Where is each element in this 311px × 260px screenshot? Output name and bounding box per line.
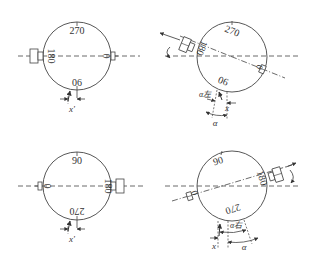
offset-label: x [224, 103, 229, 113]
dial-label-right: 180 [255, 169, 270, 187]
dial-label-left: 0 [42, 184, 53, 189]
offset-label: x [211, 241, 216, 251]
dial-label-right: 180 [103, 179, 114, 194]
angle-label: α [213, 118, 218, 128]
dial-label-right: 0 [101, 54, 112, 59]
offset-label: x' [68, 104, 76, 114]
dial-label-top: 270 [70, 25, 85, 36]
sub-angle-label: α左 [199, 90, 212, 99]
panel-bottom-left: 90 270 0 180 x' [18, 152, 145, 244]
offset-label: x' [68, 234, 76, 244]
rotation-arrow-icon [290, 170, 293, 183]
offset-indicator [60, 91, 85, 104]
panel-top-right: 270 06 180 0 x α左 α [160, 21, 300, 128]
dial-label-top: 90 [72, 155, 82, 166]
offset-indicator [60, 221, 85, 234]
gauge-left-icon [30, 49, 43, 63]
dial-label-top: 90 [212, 154, 225, 167]
panel-top-left: 270 06 180 0 x' [18, 22, 140, 114]
diagram-canvas: 270 06 180 0 x' 270 06 180 0 [0, 0, 311, 260]
angle-label: α [242, 242, 247, 252]
gauge-left-icon [179, 37, 196, 55]
dial-label-bottom: 270 [70, 206, 85, 217]
dial-label-top: 270 [223, 23, 241, 39]
sub-angle-label: α右 [230, 221, 243, 230]
dial-label-bottom: 270 [224, 202, 242, 217]
dial-label-left: 180 [46, 49, 57, 64]
dial-label-bottom: 06 [217, 74, 230, 88]
direction-arrow-icon [286, 163, 296, 167]
panel-bottom-right: 90 270 0 180 x α右 α [165, 151, 300, 252]
direction-arrow-icon [160, 33, 180, 40]
dial-label-bottom: 06 [72, 77, 82, 88]
probe-left-icon [35, 182, 42, 190]
tilted-axis-line [180, 36, 285, 78]
